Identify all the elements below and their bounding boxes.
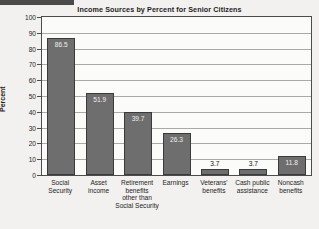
bar (86, 93, 114, 175)
gridline (42, 128, 311, 129)
y-axis-tick-label: 100 (25, 14, 36, 21)
y-axis-tick-label: 50 (29, 93, 36, 100)
y-axis-tick-label: 60 (29, 77, 36, 84)
gridline (42, 112, 311, 113)
x-axis-category-label: Noncash benefits (269, 179, 313, 194)
chart-title: Income Sources by Percent for Senior Cit… (0, 5, 319, 14)
x-axis-labels: Social SecurityAsset incomeRetirement be… (41, 179, 312, 229)
y-axis-tick-label: 70 (29, 61, 36, 68)
bar (239, 169, 267, 175)
y-axis-tick-label: 20 (29, 140, 36, 147)
y-axis: Percent 1009080706050403020100 (0, 16, 41, 176)
bar (201, 169, 229, 175)
y-axis-tick-label: 90 (29, 29, 36, 36)
y-axis-tick-label: 30 (29, 124, 36, 131)
bar-value-label: 51.9 (80, 96, 120, 103)
y-axis-tick-label: 0 (32, 172, 36, 179)
bar-value-label: 26.3 (157, 136, 197, 143)
gridline (42, 33, 311, 34)
gridline (42, 64, 311, 65)
plot-area: 86.551.939.726.33.73.711.8 (41, 16, 312, 176)
bar-chart: Income Sources by Percent for Senior Cit… (0, 0, 319, 229)
bar (47, 38, 75, 175)
y-axis-tick-label: 80 (29, 45, 36, 52)
y-axis-tick-label: 10 (29, 156, 36, 163)
bar-value-label: 39.7 (118, 115, 158, 122)
gridline (42, 49, 311, 50)
y-axis-tick-label: 40 (29, 108, 36, 115)
y-axis-label: Percent (0, 86, 6, 112)
bar-value-label: 3.7 (233, 160, 273, 167)
bar-value-label: 11.8 (272, 159, 312, 166)
gridline (42, 80, 311, 81)
bar-value-label: 3.7 (195, 160, 235, 167)
bar-value-label: 86.5 (41, 41, 81, 48)
